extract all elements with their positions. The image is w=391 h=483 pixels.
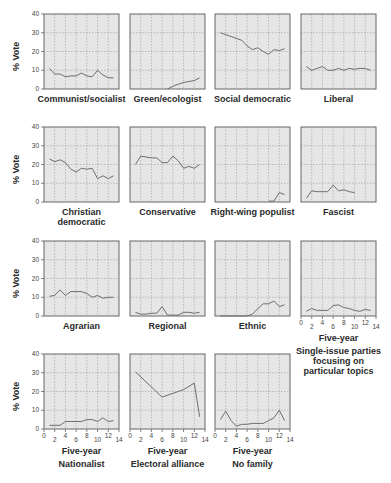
y-tick-label: 20 <box>25 161 39 168</box>
y-axis-label: % Vote <box>11 31 21 71</box>
chart-panel <box>44 127 119 202</box>
y-tick-label: 0 <box>25 312 39 319</box>
y-tick-label: 20 <box>25 388 39 395</box>
y-tick-label: 0 <box>25 198 39 205</box>
x-axis-label: Five-year <box>205 446 300 456</box>
x-axis-label: Five-year <box>291 333 386 343</box>
plot-area <box>301 127 376 202</box>
plot-area <box>215 241 290 316</box>
plot-area <box>44 14 119 89</box>
y-tick-label: 30 <box>25 29 39 36</box>
y-axis-label: % Vote <box>11 371 21 411</box>
panel-title: Liberal <box>281 94 391 104</box>
y-tick-label: 0 <box>25 85 39 92</box>
y-tick-label: 0 <box>25 425 39 432</box>
chart-panel <box>215 14 290 89</box>
y-axis-label: % Vote <box>11 144 21 184</box>
chart-panel <box>130 14 205 89</box>
y-tick-label: 30 <box>25 256 39 263</box>
y-tick-label: 40 <box>25 10 39 17</box>
plot-area <box>301 14 376 89</box>
plot-area <box>44 354 119 429</box>
chart-panel <box>130 127 205 202</box>
chart-panel <box>130 354 205 429</box>
chart-panel <box>301 127 376 202</box>
plot-area <box>130 14 205 89</box>
y-tick-label: 20 <box>25 275 39 282</box>
plot-area <box>215 354 290 429</box>
y-tick-label: 40 <box>25 350 39 357</box>
y-tick-label: 30 <box>25 142 39 149</box>
chart-panel <box>215 127 290 202</box>
plot-area <box>130 127 205 202</box>
chart-panel <box>130 241 205 316</box>
y-tick-label: 10 <box>25 66 39 73</box>
y-tick-label: 20 <box>25 48 39 55</box>
plot-area <box>301 241 376 316</box>
x-axis-label: Five-year <box>120 446 215 456</box>
panel-title: Ethnic <box>195 321 310 331</box>
plot-area <box>215 127 290 202</box>
y-tick-label: 10 <box>25 293 39 300</box>
y-tick-label: 30 <box>25 369 39 376</box>
plot-area <box>130 354 205 429</box>
plot-area <box>44 241 119 316</box>
chart-panel <box>215 241 290 316</box>
y-tick-label: 10 <box>25 179 39 186</box>
plot-area <box>44 127 119 202</box>
chart-panel <box>44 14 119 89</box>
x-axis-label: Five-year <box>34 446 129 456</box>
y-axis-label: % Vote <box>11 258 21 298</box>
chart-panel <box>44 354 119 429</box>
chart-panel <box>301 241 376 316</box>
y-tick-label: 40 <box>25 123 39 130</box>
plot-area <box>130 241 205 316</box>
panel-title: Fascist <box>281 207 391 217</box>
chart-panel <box>301 14 376 89</box>
y-tick-label: 10 <box>25 406 39 413</box>
x-tick-label: 14 <box>284 436 296 443</box>
panel-title: No family <box>195 459 310 469</box>
plot-area <box>215 14 290 89</box>
chart-panel <box>215 354 290 429</box>
chart-panel <box>44 241 119 316</box>
panel-title: Single-issue parties focusing on particu… <box>281 346 391 376</box>
y-tick-label: 40 <box>25 237 39 244</box>
x-tick-label: 14 <box>370 323 382 330</box>
